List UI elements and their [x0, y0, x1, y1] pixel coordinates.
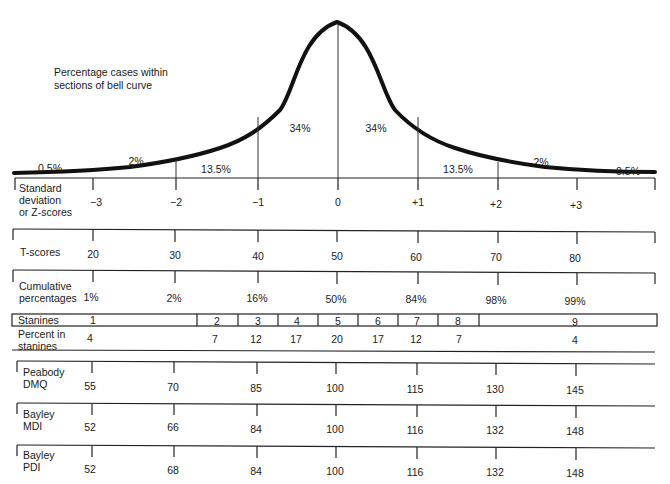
cumulative-value: 50%: [325, 293, 346, 305]
stanines-row-label: Stanines: [18, 314, 59, 326]
section-pct: 13.5%: [201, 163, 231, 175]
section-pct: 13.5%: [443, 163, 473, 175]
stanine-percent: 12: [250, 333, 262, 345]
stanine-cell: 7: [414, 315, 420, 327]
zscore-value: +2: [490, 198, 502, 210]
bayley-pdi-value: 132: [486, 466, 504, 478]
stanine-cell: 9: [572, 316, 578, 328]
title-line-2: sections of bell curve: [54, 79, 168, 92]
zscore-axis: [15, 178, 655, 190]
zscore-value: +3: [570, 199, 582, 211]
zscore-value: −1: [252, 196, 264, 208]
section-pct: 2%: [128, 155, 143, 167]
peabody-value: 115: [407, 383, 424, 395]
zscore-row-label: Standard deviation or Z-scores: [19, 182, 72, 218]
cumulative-value: 98%: [485, 294, 506, 306]
bayley-pdi-value: 68: [167, 464, 179, 476]
peabody-axis: [17, 361, 655, 376]
bayley-mdi-value: 116: [407, 424, 424, 436]
cumulative-value: 16%: [246, 292, 267, 304]
bayley-pdi-value: 52: [84, 463, 96, 475]
bayley-mdi-row-label: Bayley MDI: [23, 408, 55, 432]
section-pct: 0.5%: [38, 162, 62, 174]
bayley-mdi-axis: [17, 403, 655, 418]
tscore-value: 30: [169, 249, 181, 261]
stanine-percent: 7: [456, 333, 462, 345]
bayley-mdi-value: 66: [167, 421, 179, 433]
bayley-mdi-value: 132: [486, 424, 504, 436]
bayley-pdi-value: 100: [326, 465, 344, 477]
stanine-cell: 6: [375, 315, 381, 327]
stanine-percent: 20: [331, 333, 343, 345]
zscore-value: −2: [170, 196, 182, 208]
tscore-value: 40: [252, 250, 264, 262]
peabody-value: 55: [84, 380, 96, 392]
bayley-pdi-value: 148: [566, 467, 584, 479]
percent-in-stanines-label: Percent in stanines: [18, 328, 65, 352]
tscore-value: 60: [410, 251, 422, 263]
cumulative-value: 84%: [405, 293, 426, 305]
stanine-percent: 17: [290, 333, 302, 345]
peabody-row-label: Peabody DMQ: [23, 366, 64, 390]
peabody-value: 100: [326, 382, 344, 394]
stanine-cell: 1: [90, 314, 96, 326]
diagram-title: Percentage cases within sections of bell…: [54, 66, 168, 92]
stanine-cell: 4: [294, 315, 300, 327]
cumulative-axis: [13, 270, 655, 285]
peabody-value: 85: [250, 382, 262, 394]
peabody-value: 130: [486, 383, 504, 395]
stanine-percent: 7: [212, 333, 218, 345]
title-line-1: Percentage cases within: [54, 66, 168, 79]
stanine-percent: 4: [87, 332, 93, 344]
stanine-percent: 4: [572, 334, 578, 346]
stanine-percent: 12: [410, 333, 422, 345]
bayley-mdi-value: 52: [84, 421, 96, 433]
tscore-value: 70: [490, 251, 502, 263]
bayley-pdi-value: 116: [407, 466, 424, 478]
tscore-value: 20: [87, 248, 99, 260]
stanine-cell: 8: [455, 315, 461, 327]
stanine-cell: 3: [255, 315, 261, 327]
bayley-mdi-value: 84: [250, 423, 262, 435]
bayley-pdi-axis: [17, 445, 655, 460]
bayley-pdi-value: 84: [250, 465, 262, 477]
bell-curve-line: [14, 22, 655, 173]
stanine-cell: 5: [335, 315, 341, 327]
stanine-cell: 2: [214, 315, 220, 327]
stanine-percent: 17: [372, 333, 384, 345]
peabody-value: 70: [167, 381, 179, 393]
section-pct: 2%: [533, 156, 548, 168]
cumulative-row-label: Cumulative percentages: [19, 280, 77, 304]
tscore-axis: [13, 229, 655, 244]
cumulative-value: 99%: [564, 295, 585, 307]
zscore-value: 0: [335, 196, 341, 208]
zscore-value: −3: [90, 196, 102, 208]
tscore-value: 80: [569, 252, 581, 264]
tscore-value: 50: [331, 250, 343, 262]
zscore-value: +1: [412, 196, 424, 208]
section-pct: 0.5%: [616, 165, 640, 177]
cumulative-value: 2%: [166, 292, 181, 304]
peabody-value: 145: [566, 384, 584, 396]
section-pct: 34%: [289, 122, 310, 134]
bayley-mdi-value: 148: [566, 425, 584, 437]
tscore-row-label: T-scores: [20, 246, 60, 258]
section-pct: 34%: [365, 122, 386, 134]
bayley-mdi-value: 100: [326, 423, 344, 435]
bayley-pdi-row-label: Bayley PDI: [23, 449, 55, 473]
cumulative-value: 1%: [83, 291, 98, 303]
